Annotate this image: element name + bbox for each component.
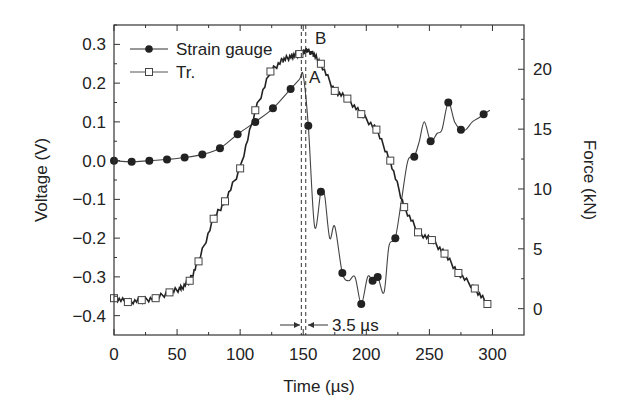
x-tick-label: 300 xyxy=(478,345,506,364)
data-point xyxy=(331,87,338,94)
data-point xyxy=(387,157,394,164)
data-point xyxy=(222,198,229,205)
data-point xyxy=(441,250,448,257)
data-point xyxy=(373,126,380,133)
y-axis-ticks: 0.30.20.10.0−0.1−0.2−0.3−0.4 xyxy=(72,25,120,326)
data-point xyxy=(198,150,206,158)
data-point xyxy=(457,126,465,134)
y2-axis-title: Force (kN) xyxy=(580,140,599,220)
y2-tick-label: 0 xyxy=(533,300,542,319)
legend-label-tr: Tr. xyxy=(176,63,195,82)
data-point xyxy=(358,111,365,118)
data-point xyxy=(269,104,277,112)
annotation-a: A xyxy=(309,68,321,87)
y-tick-label: 0.3 xyxy=(82,35,106,54)
x-tick-label: 200 xyxy=(352,345,380,364)
data-point xyxy=(181,154,189,162)
x-tick-label: 50 xyxy=(168,345,187,364)
data-point xyxy=(344,95,351,102)
data-point xyxy=(267,68,274,75)
y2-tick-label: 15 xyxy=(533,120,552,139)
data-point xyxy=(455,270,462,277)
data-point xyxy=(444,99,452,107)
y-tick-label: −0.4 xyxy=(72,307,106,326)
data-point xyxy=(252,107,259,114)
data-point xyxy=(415,229,422,236)
y-tick-label: −0.1 xyxy=(72,190,106,209)
data-point xyxy=(484,301,491,308)
y2-tick-label: 10 xyxy=(533,180,552,199)
annotation-b: B xyxy=(315,29,326,48)
data-point xyxy=(357,300,365,308)
data-point xyxy=(410,153,418,161)
data-point xyxy=(145,157,153,165)
data-point xyxy=(138,297,145,304)
data-point xyxy=(163,155,171,163)
data-point xyxy=(166,289,173,296)
y-tick-label: −0.2 xyxy=(72,229,106,248)
data-point xyxy=(234,130,242,138)
data-point xyxy=(480,110,488,118)
y-tick-label: 0.0 xyxy=(82,152,106,171)
open-square-marker-icon xyxy=(146,69,153,76)
data-point xyxy=(428,237,435,244)
data-point xyxy=(401,204,408,211)
y-tick-label: −0.3 xyxy=(72,268,106,287)
data-point xyxy=(317,188,325,196)
data-point xyxy=(186,277,193,284)
data-point xyxy=(237,165,244,172)
x-tick-label: 250 xyxy=(415,345,443,364)
data-point xyxy=(216,144,224,152)
x-tick-label: 100 xyxy=(226,345,254,364)
y-tick-label: 0.2 xyxy=(82,74,106,93)
x-axis-title: Time (µs) xyxy=(283,377,355,396)
y-tick-label: 0.1 xyxy=(82,113,106,132)
annotation-interval: 3.5 µs xyxy=(332,316,379,335)
x-tick-label: 150 xyxy=(289,345,317,364)
data-point xyxy=(374,273,382,281)
data-point xyxy=(210,215,217,222)
data-point xyxy=(471,285,478,292)
legend-label-strain-gauge: Strain gauge xyxy=(176,40,272,59)
data-point xyxy=(128,158,136,166)
data-point xyxy=(338,269,346,277)
y2-tick-label: 5 xyxy=(533,240,542,259)
x-tick-label: 0 xyxy=(109,345,118,364)
data-point xyxy=(427,137,435,145)
data-point xyxy=(124,299,131,306)
data-point xyxy=(391,234,399,242)
data-point xyxy=(152,295,159,302)
y2-tick-label: 20 xyxy=(533,60,552,79)
chart: 050100150200250300 0.30.20.10.0−0.1−0.2−… xyxy=(0,0,618,414)
data-point xyxy=(287,85,295,93)
y-axis-title: Voltage (V) xyxy=(32,138,51,222)
data-point xyxy=(296,51,303,58)
data-point xyxy=(195,258,202,265)
data-point xyxy=(317,60,324,67)
filled-circle-marker-icon xyxy=(145,45,153,53)
